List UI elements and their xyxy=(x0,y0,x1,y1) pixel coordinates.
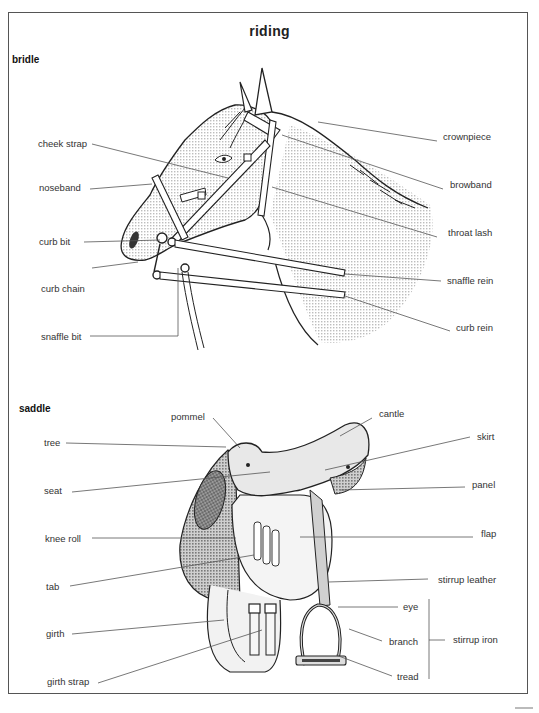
label-crownpiece: crownpiece xyxy=(443,131,491,142)
label-noseband: noseband xyxy=(39,182,81,193)
horse-head-illustration xyxy=(121,68,432,350)
label-tread: tread xyxy=(397,671,419,682)
label-tree: tree xyxy=(44,437,60,448)
label-throat-lash: throat lash xyxy=(448,227,492,238)
label-cheek-strap: cheek strap xyxy=(38,138,87,149)
label-panel: panel xyxy=(472,479,495,490)
label-stirrup-leather: stirrup leather xyxy=(438,574,496,585)
label-eye: eye xyxy=(403,601,418,612)
label-stirrup-iron: stirrup iron xyxy=(453,634,498,645)
label-pommel: pommel xyxy=(171,411,205,422)
label-curb-bit: curb bit xyxy=(39,236,70,247)
label-tab: tab xyxy=(46,581,59,592)
label-girth-strap: girth strap xyxy=(47,676,89,687)
saddle-illustration xyxy=(180,423,369,672)
page-number-mark xyxy=(515,707,533,709)
label-girth: girth xyxy=(46,628,64,639)
label-seat: seat xyxy=(44,485,62,496)
label-snaffle-bit: snaffle bit xyxy=(41,331,82,342)
illustration xyxy=(0,0,539,713)
label-cantle: cantle xyxy=(379,408,404,419)
label-browband: browband xyxy=(450,179,492,190)
label-curb-chain: curb chain xyxy=(41,283,85,294)
label-branch: branch xyxy=(389,636,418,647)
label-snaffle-rein: snaffle rein xyxy=(447,275,493,286)
label-knee-roll: knee roll xyxy=(45,533,81,544)
label-skirt: skirt xyxy=(477,431,494,442)
label-curb-rein: curb rein xyxy=(456,322,493,333)
label-flap: flap xyxy=(481,528,496,539)
